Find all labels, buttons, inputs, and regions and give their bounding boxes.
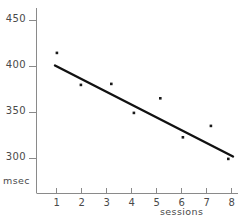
y-axis-label: msec: [3, 176, 30, 186]
data-point-4: [133, 112, 136, 115]
scatter-plot-figure: 450 400 350 300 msec 1 2 3 4 5 6 7 8 ses…: [0, 0, 248, 219]
x-tick-label-3: 3: [100, 198, 114, 208]
x-tick-label-4: 4: [125, 198, 139, 208]
data-point-2: [80, 84, 83, 87]
trend-line: [55, 66, 233, 157]
data-point-3: [110, 83, 113, 86]
y-tick-label-450: 450: [2, 14, 26, 24]
x-axis-label: sessions: [160, 207, 203, 217]
x-tick-label-1: 1: [50, 198, 64, 208]
data-point-8: [227, 158, 230, 161]
y-tick-label-400: 400: [2, 60, 26, 70]
data-point-6: [182, 136, 185, 139]
data-point-7: [210, 125, 213, 128]
data-point-5: [159, 97, 162, 100]
data-point-1: [56, 52, 59, 55]
y-tick-label-300: 300: [2, 152, 26, 162]
data-point-markers: [56, 52, 230, 161]
x-tick-label-8: 8: [225, 198, 239, 208]
x-tick-label-2: 2: [75, 198, 89, 208]
plot-canvas: [0, 0, 248, 219]
x-axis-ticks: [57, 188, 232, 194]
y-tick-label-350: 350: [2, 106, 26, 116]
y-axis-ticks: [29, 21, 37, 159]
